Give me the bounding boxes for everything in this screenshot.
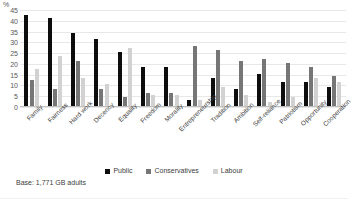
legend-label: Public <box>113 167 132 175</box>
bar <box>332 76 336 106</box>
legend-swatch <box>105 169 110 174</box>
bar <box>94 39 98 106</box>
bar <box>169 93 173 106</box>
x-axis-category-labels: FamilyFairnessHard workDecencyEqualityFr… <box>20 108 346 163</box>
y-axis-tick-5: 5 <box>14 93 18 100</box>
x-axis-label: Morality <box>160 108 183 163</box>
bar <box>118 52 122 106</box>
bar <box>58 56 62 106</box>
x-axis-label: Patriotism <box>276 108 299 163</box>
bar-groups <box>20 10 346 107</box>
y-axis-tick-40: 40 <box>10 17 18 24</box>
y-axis-tick-30: 30 <box>10 39 18 46</box>
bar-group <box>43 10 66 107</box>
bar-group <box>253 10 276 107</box>
y-axis-tick-25: 25 <box>10 50 18 57</box>
bar <box>24 15 28 106</box>
bar <box>35 69 39 106</box>
legend-item-conservatives[interactable]: Conservatives <box>146 167 198 175</box>
bar-group <box>206 10 229 107</box>
bar <box>71 33 75 106</box>
bottom-cut-rule <box>0 198 348 199</box>
x-axis-label: Opportunity <box>299 108 322 163</box>
footnote: Base: 1,771 GB adults <box>16 179 86 187</box>
bar <box>234 89 238 106</box>
bar <box>239 61 243 106</box>
bar <box>309 67 313 106</box>
bar <box>262 59 266 106</box>
y-axis-unit-label: % <box>3 1 9 9</box>
bar <box>164 67 168 106</box>
bar <box>146 93 150 106</box>
bar <box>53 89 57 106</box>
bar-group <box>183 10 206 107</box>
x-axis-label: Cooperation <box>323 108 346 163</box>
x-axis-label: Self-reliance <box>253 108 276 163</box>
bar <box>304 82 308 106</box>
bar <box>48 18 52 106</box>
legend-label: Labour <box>221 167 243 175</box>
x-axis-label: Entrepreneurship <box>183 108 206 163</box>
bar-group <box>20 10 43 107</box>
bar <box>30 80 34 106</box>
x-axis-label: Fairness <box>43 108 66 163</box>
bar <box>76 61 80 106</box>
bar-group <box>299 10 322 107</box>
x-axis-label: Family <box>20 108 43 163</box>
bar-group <box>67 10 90 107</box>
legend-swatch <box>213 169 218 174</box>
y-axis-tick-35: 35 <box>10 28 18 35</box>
bar <box>193 46 197 106</box>
bar-group <box>90 10 113 107</box>
y-axis-tick-15: 15 <box>10 71 18 78</box>
bar-group <box>160 10 183 107</box>
bar-group <box>136 10 159 107</box>
bar <box>128 48 132 106</box>
bar-group <box>276 10 299 107</box>
bar-group <box>323 10 346 107</box>
x-axis-label: Ambition <box>230 108 253 163</box>
legend-item-labour[interactable]: Labour <box>213 167 243 175</box>
bar <box>99 89 103 106</box>
bar-group <box>230 10 253 107</box>
bar <box>187 100 191 106</box>
legend-label: Conservatives <box>154 167 198 175</box>
bar <box>123 97 127 106</box>
x-axis-label: Tradition <box>206 108 229 163</box>
bar-group <box>113 10 136 107</box>
y-axis-tick-0: 0 <box>14 104 18 111</box>
bar <box>286 63 290 106</box>
y-axis-ticks: 454035302520151050 <box>0 10 20 107</box>
x-axis-label: Decency <box>90 108 113 163</box>
legend-item-public[interactable]: Public <box>105 167 132 175</box>
legend-swatch <box>146 169 151 174</box>
bar <box>257 74 261 106</box>
y-axis-tick-10: 10 <box>10 82 18 89</box>
x-axis-label: Equality <box>113 108 136 163</box>
bar <box>141 67 145 106</box>
plot-area <box>20 10 346 107</box>
y-axis-tick-45: 45 <box>10 7 18 14</box>
x-axis-label: Freedom <box>136 108 159 163</box>
legend: PublicConservativesLabour <box>0 167 348 175</box>
y-axis-tick-20: 20 <box>10 60 18 67</box>
x-axis-label: Hard work <box>67 108 90 163</box>
